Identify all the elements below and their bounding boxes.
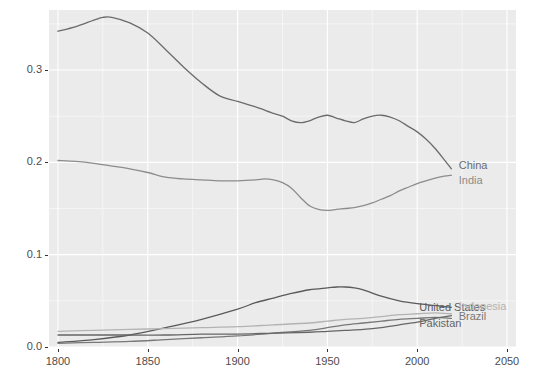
y-axis-tick-label: 0.3 — [8, 63, 42, 75]
y-axis-tick-label: 0.1 — [8, 248, 42, 260]
x-axis-tick-mark — [148, 349, 149, 352]
x-axis-tick-mark — [327, 349, 328, 352]
plot-panel — [49, 10, 516, 347]
x-axis-tick-label: 2000 — [387, 355, 447, 367]
chart-root: 0.00.10.20.3 180018501900195020002050 Ch… — [0, 0, 539, 392]
x-axis-tick-mark — [238, 349, 239, 352]
y-axis-tick-label: 0.2 — [8, 155, 42, 167]
series-label-pakistan: Pakistan — [419, 317, 461, 329]
series-label-china: China — [459, 159, 488, 171]
x-axis-tick-label: 1950 — [297, 355, 357, 367]
x-axis-tick-label: 1850 — [118, 355, 178, 367]
series-label-india: India — [459, 174, 483, 186]
series-lines — [58, 17, 451, 343]
series-line-china — [58, 17, 451, 169]
minor-gridlines — [49, 10, 516, 347]
x-axis-tick-mark — [507, 349, 508, 352]
plot-area-svg — [49, 10, 516, 347]
series-line-india — [58, 161, 451, 211]
x-axis-tick-label: 1900 — [208, 355, 268, 367]
x-axis-tick-label: 1800 — [28, 355, 88, 367]
x-axis-tick-label: 2050 — [477, 355, 537, 367]
y-axis-tick-mark — [45, 70, 48, 71]
series-label-brazil: Brazil — [459, 310, 487, 322]
x-axis-tick-mark — [58, 349, 59, 352]
x-axis-tick-mark — [417, 349, 418, 352]
series-line-indonesia — [58, 313, 451, 331]
y-axis-tick-mark — [45, 255, 48, 256]
y-axis-tick-mark — [45, 347, 48, 348]
y-axis-tick-mark — [45, 162, 48, 163]
y-axis-tick-label: 0.0 — [8, 340, 42, 352]
